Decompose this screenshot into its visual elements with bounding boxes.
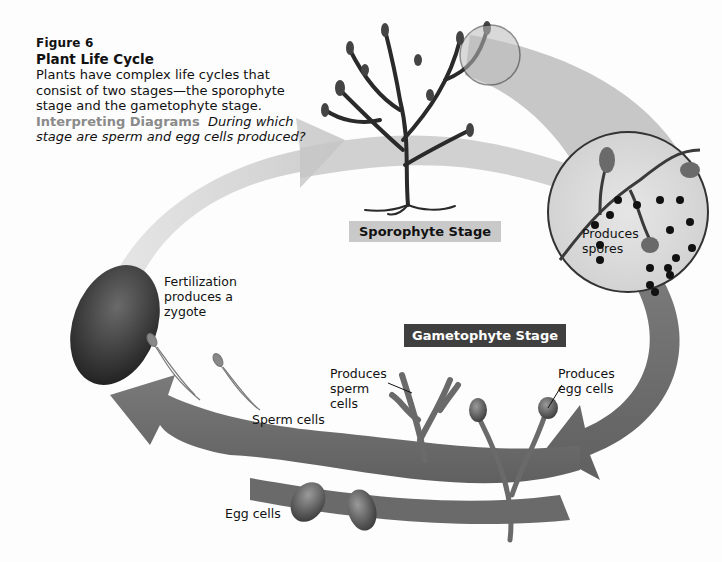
- figure-number: Figure 6: [36, 36, 306, 52]
- archegonium-1: [469, 398, 487, 422]
- egg-cells-label: Egg cells: [225, 506, 281, 521]
- produces-sperm-label: Produces sperm cells: [330, 366, 400, 411]
- magnify-circle-small: [460, 25, 520, 85]
- interpreting-diagrams-label: Interpreting Diagrams: [36, 114, 200, 129]
- sporophyte-stage-label: Sporophyte Stage: [349, 221, 501, 242]
- gametophyte-stage-label: Gametophyte Stage: [404, 324, 566, 347]
- produces-egg-label: Produces egg cells: [558, 366, 628, 396]
- produces-spores-label: Produces spores: [582, 226, 652, 256]
- zygote: [54, 252, 175, 397]
- figure-caption: Figure 6 Plant Life Cycle Plants have co…: [36, 36, 306, 145]
- spore-zoom-circle: [548, 132, 708, 292]
- figure-title: Plant Life Cycle: [36, 52, 306, 68]
- fertilization-label: Fertilization produces a zygote: [164, 274, 254, 319]
- sperm-cells-label: Sperm cells: [252, 412, 325, 427]
- figure-description: Plants have complex life cycles that con…: [36, 67, 306, 114]
